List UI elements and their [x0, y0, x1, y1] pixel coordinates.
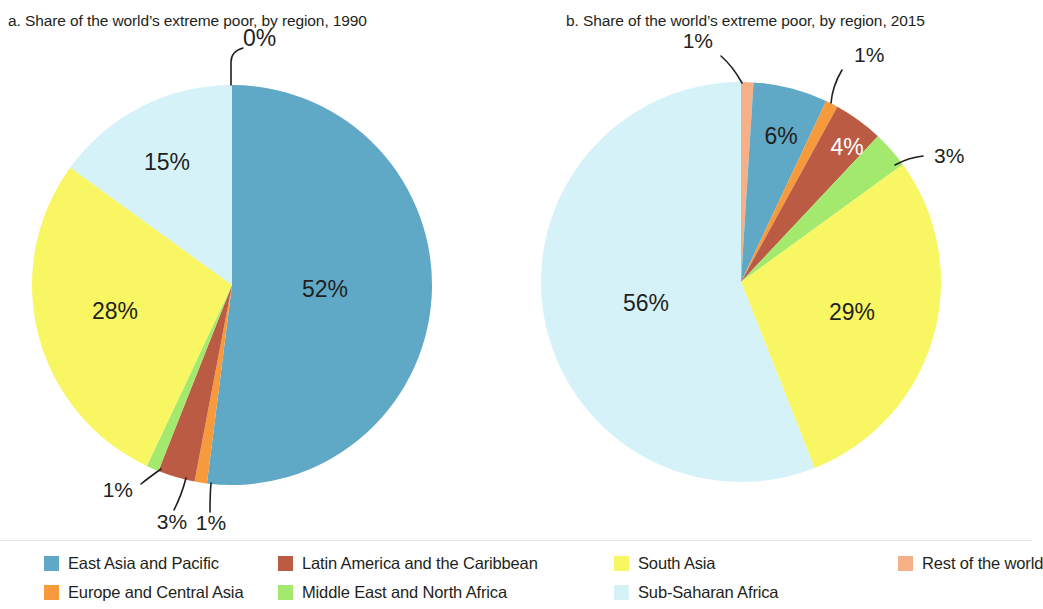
legend-item-sub-saharan-africa[interactable]: Sub-Saharan Africa: [614, 583, 778, 601]
leader-b-1-ecs: [831, 70, 842, 103]
legend-swatch-south-asia: [614, 556, 629, 571]
legend-swatch-europe-and-central-asia: [44, 585, 59, 600]
label-a-28: 28%: [92, 298, 138, 324]
pie-chart-2015: 1% 1% 3% 6% 4% 29% 56%: [516, 0, 1032, 545]
legend-item-europe-and-central-asia[interactable]: Europe and Central Asia: [44, 583, 243, 601]
legend-item-east-asia-and-pacific[interactable]: East Asia and Pacific: [44, 554, 219, 572]
label-b-29: 29%: [829, 299, 875, 325]
leader-a-3: [174, 478, 186, 510]
legend-swatch-sub-saharan-africa: [614, 585, 629, 600]
label-b-1-rest: 1%: [683, 29, 713, 52]
label-b-4: 4%: [830, 134, 863, 160]
legend-swatch-latin-america-and-the-caribbean: [278, 556, 293, 571]
legend-label-sub-saharan-africa: Sub-Saharan Africa: [638, 583, 778, 601]
label-b-6: 6%: [764, 123, 797, 149]
legend-divider: [0, 540, 1032, 541]
label-a-1-mena: 1%: [103, 478, 133, 501]
legend-swatch-east-asia-and-pacific: [44, 556, 59, 571]
leader-a-0: [231, 48, 243, 85]
legend-item-south-asia[interactable]: South Asia: [614, 554, 715, 572]
legend: East Asia and Pacific Europe and Central…: [0, 549, 1032, 609]
label-a-15: 15%: [144, 149, 190, 175]
label-a-52: 52%: [302, 276, 348, 302]
leader-a-1-ecs: [210, 483, 211, 512]
label-a-3: 3%: [157, 510, 187, 533]
legend-item-latin-america-and-the-caribbean[interactable]: Latin America and the Caribbean: [278, 554, 538, 572]
legend-item-middle-east-and-north-africa[interactable]: Middle East and North Africa: [278, 583, 507, 601]
pie-chart-1990: 0% 52% 28% 15% 1% 3% 1%: [0, 0, 516, 545]
label-b-56: 56%: [623, 290, 669, 316]
legend-label-rest-of-the-world: Rest of the world: [922, 554, 1043, 572]
legend-swatch-rest-of-the-world: [898, 556, 913, 571]
leader-a-1-mena: [141, 469, 161, 484]
label-a-1-ecs: 1%: [196, 511, 226, 534]
legend-label-east-asia-and-pacific: East Asia and Pacific: [68, 554, 219, 572]
label-b-3: 3%: [934, 144, 964, 167]
pie-b-slices: [541, 82, 941, 482]
pie-a-slices: [32, 85, 432, 485]
legend-item-rest-of-the-world[interactable]: Rest of the world: [898, 554, 1043, 572]
legend-label-europe-and-central-asia: Europe and Central Asia: [68, 583, 243, 601]
legend-label-latin-america-and-the-caribbean: Latin America and the Caribbean: [302, 554, 538, 572]
legend-label-middle-east-and-north-africa: Middle East and North Africa: [302, 583, 507, 601]
label-b-1-ecs: 1%: [854, 43, 884, 66]
leader-b-1-rest: [721, 56, 742, 83]
label-a-0: 0%: [243, 25, 276, 51]
legend-label-south-asia: South Asia: [638, 554, 715, 572]
legend-swatch-middle-east-and-north-africa: [278, 585, 293, 600]
